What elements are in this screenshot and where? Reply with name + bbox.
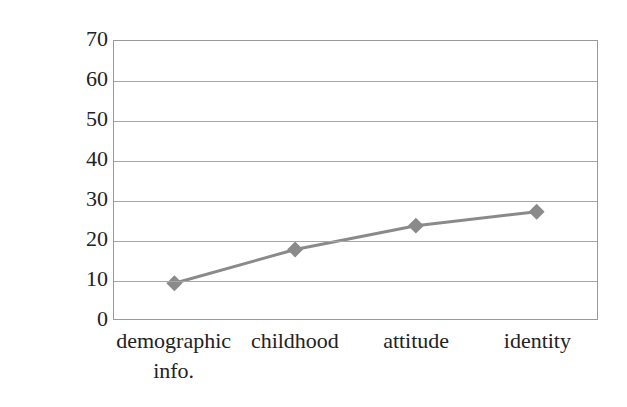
x-axis-tick-label-line: childhood	[234, 326, 355, 356]
plot-area	[113, 40, 598, 320]
data-point-marker	[166, 275, 182, 291]
x-axis-tick-label-line: info.	[113, 356, 234, 386]
x-axis-tick-label-line: attitude	[356, 326, 477, 356]
x-axis-tick-label-line: demographic	[113, 326, 234, 356]
gridline	[114, 81, 597, 82]
y-axis-tick-label: 0	[64, 308, 108, 330]
gridline	[114, 201, 597, 202]
line-chart: タ行子音有声化割合(%) 706050403020100 demographic…	[0, 0, 627, 407]
y-axis-tick-label: 50	[64, 108, 108, 130]
y-axis-tick-label: 70	[64, 28, 108, 50]
x-axis-tick-labels: demographicinfo.childhoodattitudeidentit…	[113, 326, 598, 396]
y-axis-tick-label: 20	[64, 228, 108, 250]
gridline	[114, 121, 597, 122]
y-axis-tick-labels: 706050403020100	[62, 40, 108, 320]
data-point-marker	[529, 204, 545, 220]
x-axis-tick-label-line: identity	[477, 326, 598, 356]
gridline	[114, 241, 597, 242]
data-point-marker	[408, 218, 424, 234]
x-axis-tick-label: demographicinfo.	[113, 326, 234, 385]
x-axis-tick-label: childhood	[234, 326, 355, 356]
gridline	[114, 281, 597, 282]
data-point-marker	[287, 242, 303, 258]
x-axis-tick-label: attitude	[356, 326, 477, 356]
y-axis-tick-label: 30	[64, 188, 108, 210]
series-line	[114, 41, 597, 319]
y-axis-tick-label: 60	[64, 68, 108, 90]
y-axis-tick-label: 10	[64, 268, 108, 290]
x-axis-tick-label: identity	[477, 326, 598, 356]
y-axis-tick-label: 40	[64, 148, 108, 170]
series-polyline	[174, 212, 536, 283]
gridline	[114, 161, 597, 162]
